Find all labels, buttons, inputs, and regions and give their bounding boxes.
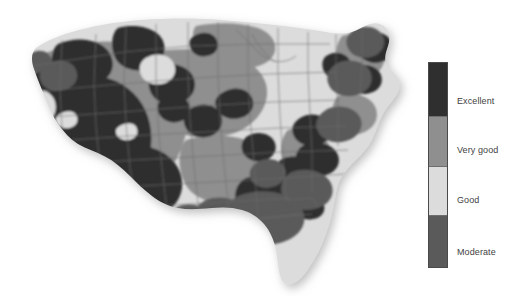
legend-color-bar	[428, 62, 448, 268]
resource-class-regions	[16, 22, 392, 245]
legend-swatch-excellent	[429, 63, 447, 116]
legend-label-moderate: Moderate	[457, 247, 496, 257]
map-graphic	[0, 0, 420, 296]
legend-label-very-good: Very good	[457, 145, 498, 155]
map-canvas: Excellent Very good Good Moderate	[0, 0, 509, 296]
legend-swatch-moderate	[429, 215, 447, 267]
legend-label-excellent: Excellent	[457, 96, 494, 106]
resource-quality-legend: Excellent Very good Good Moderate	[428, 62, 509, 270]
us-resource-map	[0, 0, 420, 296]
legend-label-good: Good	[457, 195, 479, 205]
legend-swatch-good	[429, 166, 447, 215]
legend-swatch-very-good	[429, 116, 447, 166]
